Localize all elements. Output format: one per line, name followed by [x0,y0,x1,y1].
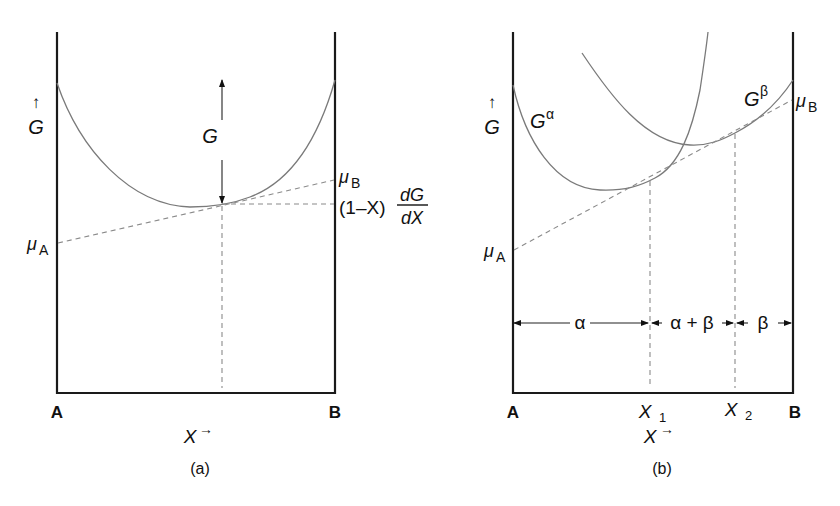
panel-b-region-alpha-beta: α + β [670,312,714,333]
panel-a-y-axis-arrow: ↑ [32,93,41,112]
panel-a-x-axis-label: X [183,426,198,447]
panel-a-y-axis-label: G [28,116,44,138]
panel-a-mu-a-symbol: μ [26,234,37,254]
panel-b-endpoint-a: A [507,403,519,422]
panel-b-g-alpha-label: G [530,110,546,132]
free-energy-diagram: ↑ G G μ A μ B (1–X) dG dX A B X → (a) [0,0,840,506]
panel-b-x-axis-label: X [643,426,658,447]
panel-a-mu-b-sub: B [351,175,360,191]
panel-a-endpoint-b: B [329,403,341,422]
panel-a-tangent-expr-prefix: (1–X) [339,197,385,218]
panel-b-region-beta: β [758,312,769,333]
panel-b-g-beta-label: G [744,88,760,110]
panel-b-region-alpha: α [575,312,586,333]
panel-a-frame [57,32,335,393]
panel-a-endpoint-a: A [51,403,63,422]
panel-a-mu-a-sub: A [39,242,49,258]
panel-b-x2-sub: 2 [745,408,752,423]
panel-b-mu-b-sub: B [808,99,817,115]
panel-b-g-beta-sup: β [760,83,768,99]
panel-a-g-label: G [202,125,218,147]
panel-b-mu-a-symbol: μ [483,241,494,261]
panel-a-x-axis-arrow: → [199,421,213,437]
panel-a-tangent-denominator: dX [401,208,424,228]
panel-a-tangent-line [58,180,334,243]
panel-b-x-axis-arrow: → [660,421,674,437]
panel-a-caption: (a) [190,460,210,477]
panel-b-y-axis-arrow: ↑ [488,93,497,112]
panel-b-x1-label: X [638,401,653,422]
panel-b-y-axis-label: G [484,116,500,138]
panel-a-tangent-numerator: dG [400,185,424,205]
panel-a-free-energy-curve [57,80,335,207]
panel-b-mu-b-symbol: μ [795,91,806,111]
panel-b-g-beta-curve [582,53,793,145]
panel-a-mu-b-symbol: μ [338,167,349,187]
panel-b-mu-a-sub: A [496,249,506,265]
panel-b-x2-label: X [724,399,739,420]
panel-b: α α + β β ↑ G G α G β μ A μ B A B X 1 X … [483,32,817,477]
panel-a: ↑ G G μ A μ B (1–X) dG dX A B X → (a) [26,32,428,477]
panel-b-frame [513,32,793,393]
panel-b-endpoint-b: B [789,403,801,422]
panel-b-common-tangent [514,100,792,250]
panel-b-caption: (b) [652,460,672,477]
panel-b-g-alpha-sup: α [546,106,554,122]
